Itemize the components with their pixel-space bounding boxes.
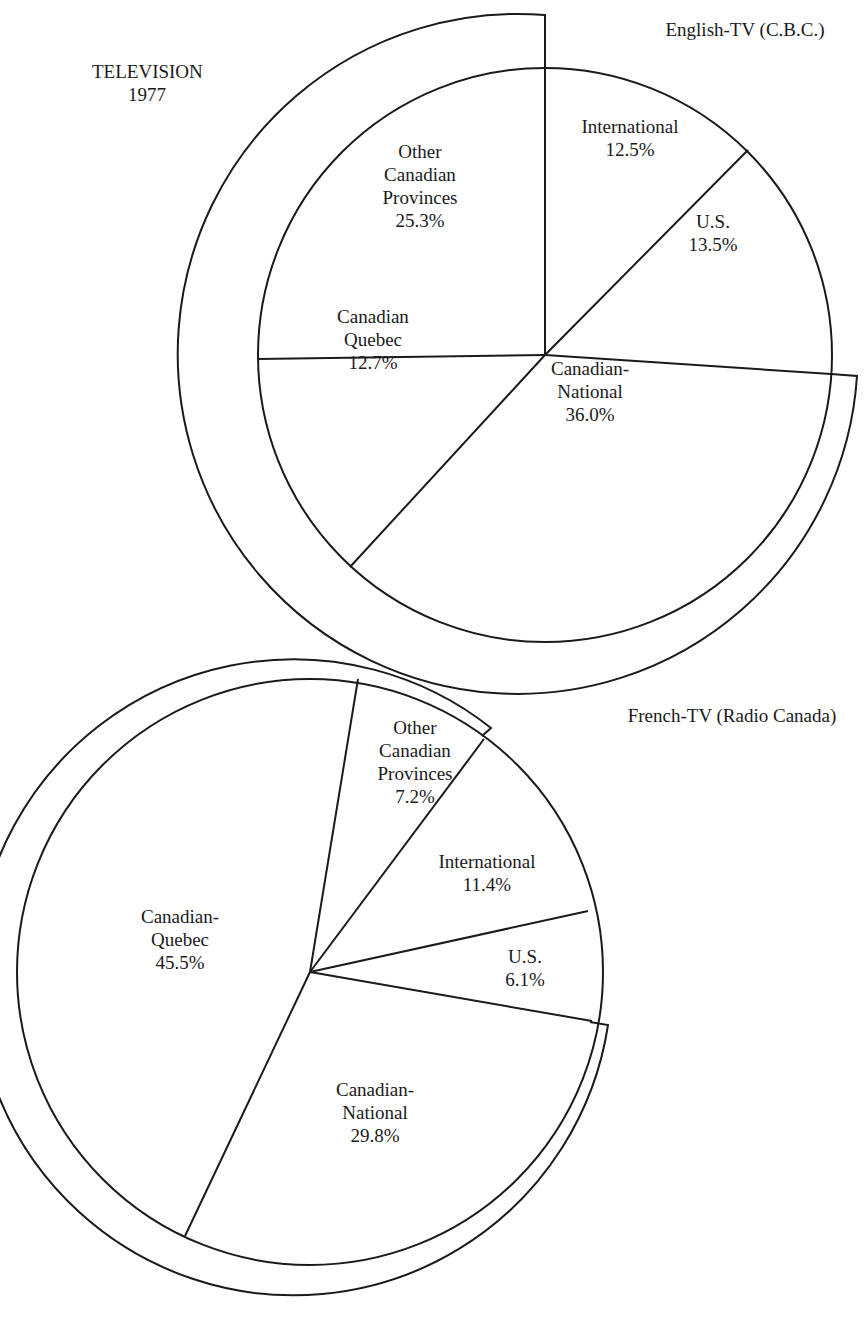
english-canadian-band xyxy=(178,14,857,694)
divider-quebec-other xyxy=(310,679,358,972)
figure-heading: TELEVISION 1977 xyxy=(92,60,202,106)
heading-line-2: 1977 xyxy=(92,83,202,106)
heading-line-1: TELEVISION xyxy=(92,60,202,83)
french-label-us: U.S.6.1% xyxy=(485,945,565,991)
french-label-other: OtherCanadianProvinces7.2% xyxy=(355,716,475,808)
english-label-quebec: CanadianQuebec12.7% xyxy=(303,305,443,374)
divider-national-quebec xyxy=(185,972,310,1236)
french-chart-title: French-TV (Radio Canada) xyxy=(602,704,862,727)
english-tv-pie xyxy=(178,14,857,694)
french-label-international: International11.4% xyxy=(412,850,562,896)
english-label-national: Canadian-National36.0% xyxy=(520,357,660,426)
english-label-international: International12.5% xyxy=(560,115,700,161)
english-label-other: OtherCanadianProvinces25.3% xyxy=(350,140,490,232)
french-label-quebec: Canadian-Quebec45.5% xyxy=(110,905,250,974)
french-label-national: Canadian-National29.8% xyxy=(305,1078,445,1147)
english-label-us: U.S.13.5% xyxy=(658,210,768,256)
divider-national-quebec xyxy=(350,355,545,567)
english-chart-title: English-TV (C.B.C.) xyxy=(630,18,860,41)
